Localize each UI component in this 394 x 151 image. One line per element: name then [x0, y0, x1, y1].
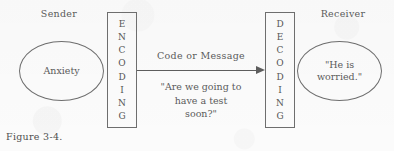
- receiver-state-text: "He is worried.": [317, 59, 362, 83]
- arrow-head: [256, 66, 265, 74]
- encoding-letter-6: N: [118, 97, 126, 110]
- receiver-line-1: "He is: [317, 59, 362, 71]
- receiver-line-2: worried.": [317, 71, 362, 83]
- message-line-3: soon?": [133, 107, 269, 121]
- decoding-letter-5: I: [278, 84, 282, 97]
- message-line-2: have a test: [133, 94, 269, 108]
- decoding-letter-6: N: [276, 97, 284, 110]
- sender-state-ellipse: Anxiety: [19, 41, 104, 101]
- message-line-1: "Are we going to: [133, 80, 269, 94]
- communication-model-figure: Sender Anxiety E N C O D I N G Code or M…: [0, 0, 394, 151]
- arrow-shaft: [137, 70, 258, 71]
- receiver-label: Receiver: [295, 8, 391, 19]
- decoding-letter-2: C: [277, 44, 284, 57]
- encoding-letter-3: O: [118, 57, 125, 70]
- decoding-letter-3: O: [276, 57, 283, 70]
- encoding-letter-1: N: [118, 31, 126, 44]
- encoding-letter-5: I: [120, 84, 124, 97]
- encoding-letter-2: C: [119, 44, 126, 57]
- figure-caption: Figure 3-4.: [6, 131, 63, 142]
- message-arrow-icon: [137, 66, 265, 75]
- sender-state-text: Anxiety: [43, 65, 79, 77]
- decoding-box: D E C O D I N G: [265, 12, 295, 128]
- message-quote: "Are we going to have a test soon?": [133, 80, 269, 121]
- encoding-letter-7: G: [118, 110, 125, 123]
- sender-label: Sender: [0, 8, 118, 19]
- decoding-letter-0: D: [276, 18, 283, 31]
- channel-label: Code or Message: [137, 50, 265, 61]
- encoding-letter-0: E: [119, 18, 126, 31]
- receiver-state-ellipse: "He is worried.": [297, 41, 382, 101]
- decoding-letter-4: D: [276, 71, 283, 84]
- encoding-letter-4: D: [118, 71, 125, 84]
- decoding-letter-1: E: [277, 31, 284, 44]
- decoding-letter-7: G: [276, 110, 283, 123]
